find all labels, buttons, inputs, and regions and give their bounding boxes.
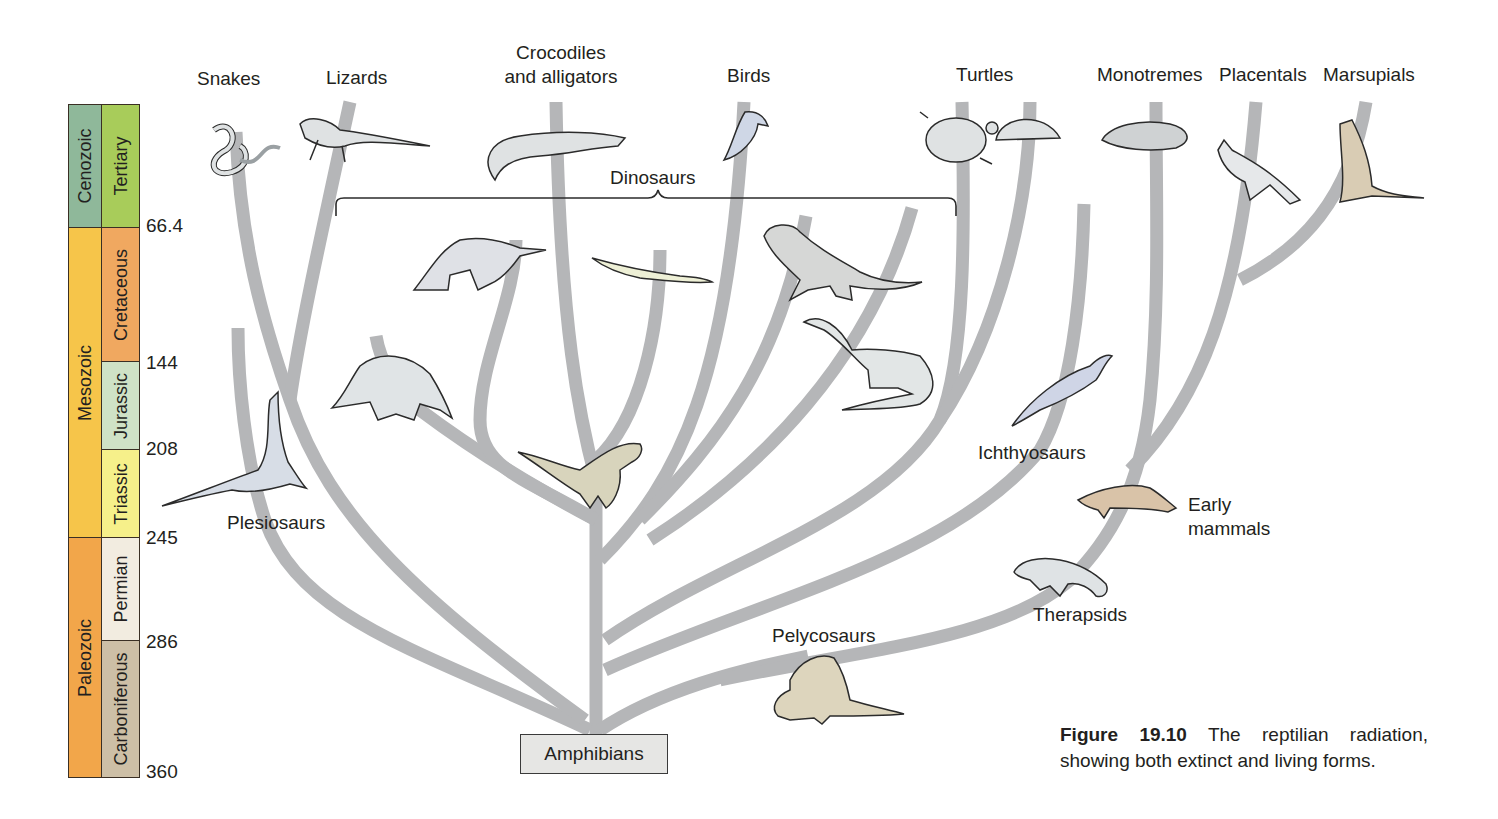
- label-pelycosaurs: Pelycosaurs: [772, 624, 876, 648]
- reptilian-radiation-figure: Cenozoic Mesozoic Paleozoic Tertiary Cre…: [0, 0, 1498, 819]
- triceratops-icon: [414, 238, 546, 290]
- phylogenetic-tree: [0, 0, 1498, 819]
- period-triassic: Triassic: [101, 449, 140, 538]
- label-ichthyosaurs: Ichthyosaurs: [978, 441, 1086, 465]
- label-early-mammals-line1: Early: [1188, 493, 1270, 517]
- sauropod-icon: [804, 319, 933, 410]
- era-label: Mesozoic: [75, 344, 96, 420]
- label-crocodiles-line1: Crocodiles: [496, 41, 626, 65]
- figure-caption: Figure 19.10 The reptilian radiation, sh…: [1060, 722, 1428, 774]
- kangaroo-icon: [1340, 120, 1424, 202]
- label-birds: Birds: [727, 64, 770, 88]
- tick-360: 360: [146, 761, 178, 783]
- theropod-icon: [518, 443, 642, 508]
- figure-number: Figure 19.10: [1060, 724, 1187, 745]
- tick-245: 245: [146, 527, 178, 549]
- label-placentals: Placentals: [1219, 63, 1307, 87]
- era-label: Cenozoic: [75, 128, 96, 203]
- label-plesiosaurs: Plesiosaurs: [227, 511, 325, 535]
- era-mesozoic: Mesozoic: [68, 227, 102, 538]
- period-permian: Permian: [101, 537, 140, 641]
- period-label: Carboniferous: [110, 652, 131, 765]
- sea-turtle-icon: [920, 112, 992, 164]
- tick-66-4: 66.4: [146, 215, 183, 237]
- period-tertiary: Tertiary: [101, 104, 140, 228]
- branch-snakes: [236, 132, 585, 720]
- tick-208: 208: [146, 438, 178, 460]
- period-label: Tertiary: [110, 136, 131, 195]
- label-crocodiles: Crocodiles and alligators: [496, 41, 626, 89]
- period-jurassic: Jurassic: [101, 361, 140, 450]
- period-label: Cretaceous: [110, 248, 131, 340]
- snake-icon: [214, 127, 280, 174]
- pterosaur-icon: [592, 258, 712, 283]
- label-lizards: Lizards: [326, 66, 387, 90]
- platypus-icon: [1102, 122, 1187, 150]
- label-monotremes: Monotremes: [1097, 63, 1203, 87]
- lizard-icon: [300, 119, 430, 162]
- fox-icon: [1218, 140, 1300, 204]
- branch-pterosaurs: [596, 250, 660, 460]
- early-mammal-icon: [1078, 486, 1176, 518]
- plesiosaur-icon: [162, 392, 306, 506]
- label-early-mammals: Early mammals: [1188, 493, 1270, 541]
- branch-crocodiles: [556, 102, 596, 480]
- dinosaurs-bracket: [336, 190, 956, 216]
- tick-144: 144: [146, 352, 178, 374]
- period-carboniferous: Carboniferous: [101, 640, 140, 778]
- label-early-mammals-line2: mammals: [1188, 517, 1270, 541]
- period-label: Triassic: [110, 463, 131, 524]
- root-amphibians-box: Amphibians: [520, 734, 668, 774]
- label-dinosaurs: Dinosaurs: [610, 166, 696, 190]
- geologic-timescale: Cenozoic Mesozoic Paleozoic Tertiary Cre…: [68, 104, 140, 778]
- era-label: Paleozoic: [75, 618, 96, 696]
- land-turtle-icon: [986, 119, 1060, 140]
- period-label: Permian: [110, 555, 131, 622]
- label-snakes: Snakes: [197, 67, 260, 91]
- root-amphibians-label: Amphibians: [544, 743, 643, 765]
- stegosaur-icon: [332, 356, 452, 420]
- label-therapsids: Therapsids: [1033, 603, 1127, 627]
- label-turtles: Turtles: [956, 63, 1013, 87]
- label-crocodiles-line2: and alligators: [496, 65, 626, 89]
- tick-286: 286: [146, 631, 178, 653]
- period-label: Jurassic: [110, 372, 131, 438]
- era-cenozoic: Cenozoic: [68, 104, 102, 228]
- period-cretaceous: Cretaceous: [101, 227, 140, 362]
- era-paleozoic: Paleozoic: [68, 537, 102, 778]
- label-marsupials: Marsupials: [1323, 63, 1415, 87]
